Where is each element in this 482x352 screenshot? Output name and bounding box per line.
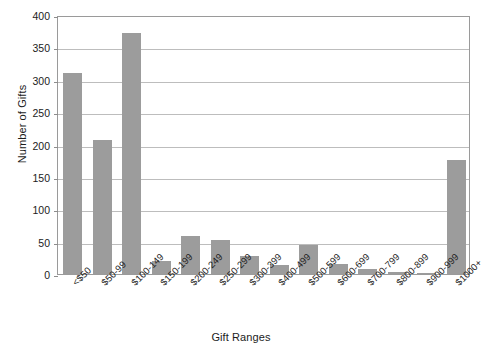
y-tick-mark — [54, 276, 58, 277]
bar — [63, 73, 82, 274]
y-tick-mark — [54, 114, 58, 115]
y-tick-mark — [54, 49, 58, 50]
bar — [122, 33, 141, 274]
y-tick-mark — [54, 147, 58, 148]
y-tick-mark — [54, 211, 58, 212]
gridline — [58, 82, 469, 83]
gridline — [58, 179, 469, 180]
gridline — [58, 244, 469, 245]
y-tick-mark — [54, 179, 58, 180]
gridline — [58, 49, 469, 50]
y-tick-label: 350 — [6, 42, 50, 54]
gridline — [58, 114, 469, 115]
x-axis-title: Gift Ranges — [0, 331, 482, 343]
gridline — [58, 147, 469, 148]
y-tick-label: 150 — [6, 172, 50, 184]
y-tick-label: 0 — [6, 269, 50, 281]
bar — [93, 140, 112, 274]
plot-area — [57, 16, 470, 275]
y-tick-label: 200 — [6, 140, 50, 152]
y-tick-mark — [54, 244, 58, 245]
y-tick-label: 300 — [6, 75, 50, 87]
y-tick-mark — [54, 82, 58, 83]
y-tick-label: 50 — [6, 237, 50, 249]
y-tick-label: 100 — [6, 204, 50, 216]
gift-ranges-bar-chart: Number of Gifts Gift Ranges 050100150200… — [0, 0, 482, 352]
y-tick-label: 250 — [6, 107, 50, 119]
gridline — [58, 211, 469, 212]
y-tick-label: 400 — [6, 10, 50, 22]
y-tick-mark — [54, 17, 58, 18]
